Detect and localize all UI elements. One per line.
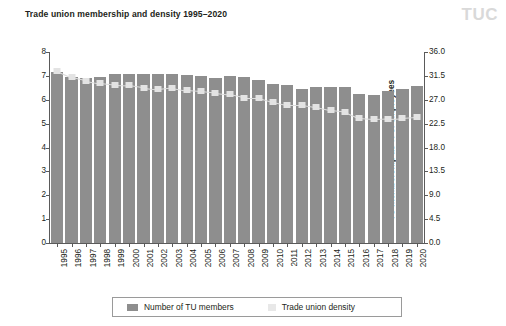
density-marker <box>169 85 176 91</box>
x-axis-tick-mark <box>359 243 360 247</box>
density-marker <box>241 95 248 101</box>
tuc-logo: TUC <box>462 6 498 23</box>
y-axis-right-tick-mark <box>424 195 428 196</box>
density-marker <box>54 68 61 74</box>
x-axis-tick-label: 2017 <box>377 249 385 267</box>
x-axis-tick-mark <box>115 243 116 247</box>
y-axis-right-tick-label: 9.0 <box>429 191 440 199</box>
y-axis-right-tick-mark <box>424 171 428 172</box>
x-axis-tick-label: 2010 <box>277 249 285 267</box>
x-axis-tick-label: 2003 <box>176 249 184 267</box>
legend-item-members: Number of TU members <box>127 302 234 312</box>
x-axis-tick-label: 2002 <box>161 249 169 267</box>
x-axis-tick-label: 2018 <box>392 249 400 267</box>
x-axis-tick-label: 2001 <box>147 249 155 267</box>
x-axis-tick-label: 2011 <box>291 249 299 267</box>
x-axis-tick-mark <box>100 243 101 247</box>
x-axis-tick-label: 1995 <box>61 249 69 267</box>
density-marker <box>341 109 348 115</box>
density-marker <box>140 85 147 91</box>
density-marker <box>313 104 320 110</box>
density-marker <box>68 74 75 80</box>
x-axis-tick-mark <box>201 243 202 247</box>
y-axis-right-tick-label: 22.5 <box>429 120 445 128</box>
density-marker <box>269 99 276 105</box>
y-axis-right-tick-label: 31.5 <box>429 72 445 80</box>
density-series <box>50 52 424 243</box>
y-axis-right-tick-mark <box>424 219 428 220</box>
y-axis-right-tick-mark <box>424 243 428 244</box>
legend-swatch-density-icon <box>268 304 276 311</box>
x-axis-tick-label: 1999 <box>118 249 126 267</box>
x-axis-tick-mark <box>230 243 231 247</box>
x-axis-tick-label: 1997 <box>90 249 98 267</box>
density-marker <box>111 82 118 88</box>
x-axis-tick-label: 2007 <box>233 249 241 267</box>
x-axis-tick-mark <box>86 243 87 247</box>
density-marker <box>399 115 406 121</box>
y-axis-right-tick-mark <box>424 100 428 101</box>
y-axis-right-tick-mark <box>424 124 428 125</box>
density-marker <box>327 107 334 113</box>
density-marker <box>298 102 305 108</box>
x-axis-tick-mark <box>388 243 389 247</box>
x-axis-tick-mark <box>302 243 303 247</box>
y-axis-right-tick-label: 27.0 <box>429 96 445 104</box>
legend-swatch-bar-icon <box>127 304 138 311</box>
density-marker <box>356 115 363 121</box>
y-axis-right-tick-label: 4.5 <box>429 215 440 223</box>
x-axis-tick-mark <box>172 243 173 247</box>
x-axis-line <box>49 243 425 244</box>
density-marker <box>255 95 262 101</box>
x-axis-tick-label: 2009 <box>262 249 270 267</box>
y-axis-right-tick-mark <box>424 148 428 149</box>
x-axis-tick-mark <box>316 243 317 247</box>
density-marker <box>226 91 233 97</box>
x-axis-tick-label: 2020 <box>420 249 428 267</box>
x-axis-tick-mark <box>417 243 418 247</box>
density-marker <box>284 102 291 108</box>
x-axis-tick-mark <box>345 243 346 247</box>
density-marker <box>413 114 420 120</box>
x-axis-tick-label: 2016 <box>363 249 371 267</box>
x-axis-tick-label: 2015 <box>348 249 356 267</box>
x-axis-tick-label: 2013 <box>320 249 328 267</box>
density-marker <box>82 78 89 84</box>
y-axis-right-tick-label: 36.0 <box>429 48 445 56</box>
x-axis-tick-mark <box>287 243 288 247</box>
density-marker <box>370 116 377 122</box>
density-marker <box>198 88 205 94</box>
y-axis-right-tick-mark <box>424 76 428 77</box>
density-marker <box>183 87 190 93</box>
x-axis-tick-mark <box>273 243 274 247</box>
chart-legend: Number of TU members Trade union density <box>112 297 402 317</box>
x-axis-tick-label: 2006 <box>219 249 227 267</box>
x-axis-tick-mark <box>57 243 58 247</box>
x-axis-tick-mark <box>187 243 188 247</box>
y-axis-right-tick-label: 0.0 <box>429 239 440 247</box>
chart-title: Trade union membership and density 1995–… <box>25 9 227 19</box>
y-axis-right-tick-mark <box>424 52 428 53</box>
x-axis-tick-label: 2000 <box>133 249 141 267</box>
x-axis-tick-mark <box>158 243 159 247</box>
x-axis-tick-mark <box>72 243 73 247</box>
x-axis-tick-label: 2005 <box>205 249 213 267</box>
density-marker <box>97 80 104 86</box>
y-axis-left-tick-mark <box>46 243 50 244</box>
x-axis-tick-label: 1998 <box>104 249 112 267</box>
density-marker <box>385 116 392 122</box>
x-axis-tick-label: 2004 <box>190 249 198 267</box>
y-axis-right-tick-label: 13.5 <box>429 167 445 175</box>
x-axis-tick-label: 1996 <box>75 249 83 267</box>
density-marker <box>154 86 161 92</box>
x-axis-tick-mark <box>259 243 260 247</box>
legend-item-density: Trade union density <box>268 302 355 312</box>
x-axis-tick-label: 2019 <box>406 249 414 267</box>
x-axis-tick-mark <box>129 243 130 247</box>
x-axis-tick-mark <box>215 243 216 247</box>
density-marker <box>212 90 219 96</box>
plot-area: 012345678 0.04.59.013.518.022.527.031.53… <box>50 52 424 243</box>
x-axis-tick-mark <box>374 243 375 247</box>
x-axis-tick-mark <box>331 243 332 247</box>
x-axis-tick-label: 2008 <box>248 249 256 267</box>
